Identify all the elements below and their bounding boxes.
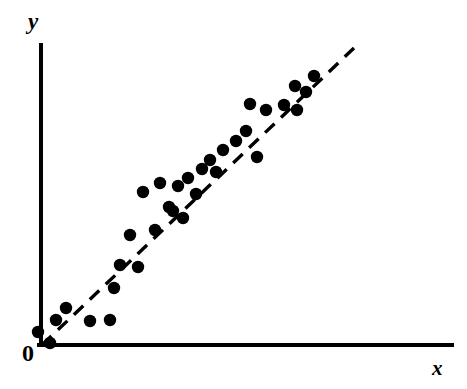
data-point [167,205,179,217]
plot-canvas [0,0,467,389]
origin-label: 0 [22,341,34,365]
data-point [124,229,136,241]
data-point [210,166,222,178]
data-point [84,315,96,327]
axes-group [39,45,452,345]
data-point [230,135,242,147]
data-point [244,98,256,110]
data-point [190,188,202,200]
data-point [251,151,263,163]
data-point [291,104,303,116]
data-point [177,212,189,224]
data-point [108,282,120,294]
data-point [204,154,216,166]
data-point [289,80,301,92]
data-point [132,261,144,273]
data-point [60,302,72,314]
data-point [260,104,272,116]
data-point [114,259,126,271]
data-point [172,180,184,192]
data-point [217,144,229,156]
x-axis-label: x [432,358,443,379]
data-point [182,172,194,184]
data-point [32,326,44,338]
data-point [240,125,252,137]
data-point [104,314,116,326]
data-point [50,314,62,326]
data-points-group [32,70,320,349]
data-point [137,186,149,198]
data-point [44,337,56,349]
y-axis-label: y [28,10,38,33]
data-point [300,86,312,98]
data-point [308,70,320,82]
scatter-plot-figure: y x 0 [0,0,467,389]
data-point [154,177,166,189]
data-point [149,224,161,236]
data-point [278,99,290,111]
